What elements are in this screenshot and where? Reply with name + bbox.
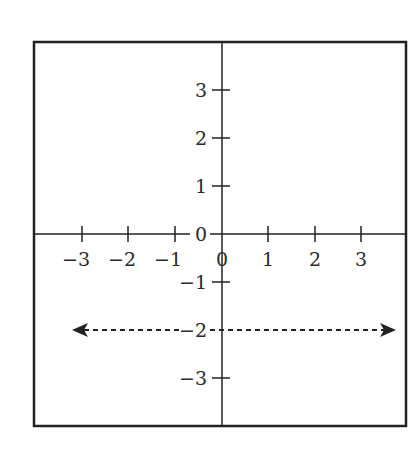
coordinate-plane: −3 −2 −1 0 1 2 3 3 2 1 0 −1 −2 −3 (0, 0, 420, 454)
y-tick-label: 3 (195, 79, 207, 101)
x-tick-label: −3 (62, 248, 90, 270)
y-tick-label: 1 (195, 175, 207, 197)
y-tick-label: −2 (179, 319, 207, 341)
y-tick-label: −1 (179, 271, 207, 293)
x-tick-label: −1 (154, 248, 182, 270)
x-tick-label: 0 (216, 248, 228, 270)
x-tick-label: 2 (309, 248, 321, 270)
y-tick-label: −3 (179, 367, 207, 389)
x-tick-label: 1 (262, 248, 274, 270)
dashed-line-y-minus-2 (72, 323, 396, 337)
y-tick-label: 2 (195, 127, 207, 149)
x-tick-label: −2 (108, 248, 136, 270)
x-tick-label: 3 (355, 248, 367, 270)
y-tick-label: 0 (195, 223, 207, 245)
